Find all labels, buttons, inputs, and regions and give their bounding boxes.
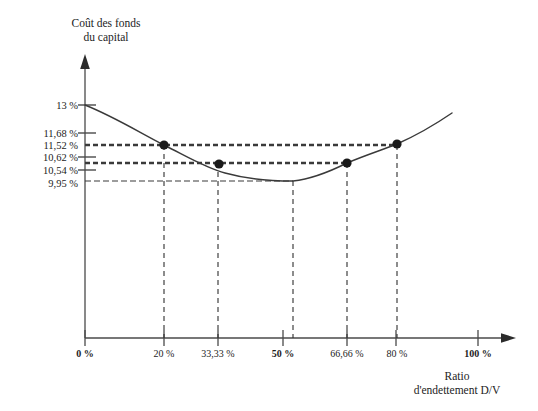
x-axis-arrow-icon xyxy=(501,333,516,343)
chart-plot-area xyxy=(0,0,538,411)
data-point-80 xyxy=(392,139,401,148)
data-point-20 xyxy=(159,140,168,149)
data-point-66-66 xyxy=(342,158,351,167)
data-point-33-33 xyxy=(214,159,223,168)
chart-figure: Coût des fonds du capital Ratio d'endett… xyxy=(0,0,538,411)
y-axis-arrow-icon xyxy=(80,54,90,69)
